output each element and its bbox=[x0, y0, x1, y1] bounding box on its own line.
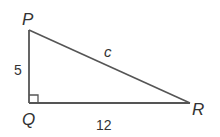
vertex-label-r: R bbox=[192, 100, 204, 119]
triangle-diagram: P Q R 5 12 c bbox=[0, 0, 220, 137]
right-angle-marker bbox=[29, 95, 38, 103]
side-label-pq: 5 bbox=[14, 62, 22, 78]
side-label-qr: 12 bbox=[96, 117, 112, 133]
vertex-label-p: P bbox=[22, 10, 34, 29]
side-label-pr: c bbox=[104, 43, 112, 60]
triangle-svg: P Q R 5 12 c bbox=[0, 0, 220, 137]
vertex-label-q: Q bbox=[22, 110, 35, 129]
side-pr-hypotenuse bbox=[29, 30, 190, 103]
